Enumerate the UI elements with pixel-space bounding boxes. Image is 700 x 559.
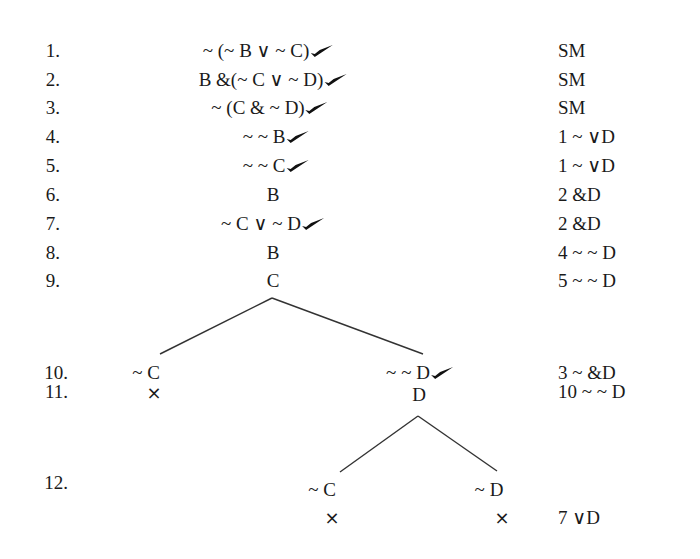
formula: B (267, 184, 280, 206)
checkmark-icon (285, 130, 309, 144)
justification: 2 &D (558, 213, 601, 235)
branch-right-formula: ~ ~ D (386, 362, 454, 384)
justification: SM (558, 40, 585, 62)
justification: 4 ~ ~ D (558, 242, 616, 264)
branch-closed-x-icon: × (146, 382, 161, 404)
branch-right-formula: D (412, 384, 426, 406)
formula: B &(~ C ∨ ~ D) (199, 69, 348, 91)
line-number: 12. (8, 472, 68, 494)
line-number: 6. (0, 184, 60, 206)
line-number: 5. (0, 155, 60, 177)
formula: ~ ~ B (243, 126, 310, 148)
branch-closed-x-icon: × (494, 507, 509, 529)
branch-line-right-1 (272, 298, 423, 354)
line-number: 4. (0, 126, 60, 148)
justification: SM (558, 97, 585, 119)
checkmark-icon (323, 73, 347, 87)
formula: C (267, 270, 280, 292)
justification: 5 ~ ~ D (558, 270, 616, 292)
checkmark-icon (309, 44, 333, 58)
formula: ~ (~ B ∨ ~ C) (203, 40, 334, 62)
justification: 10 ~ ~ D (558, 381, 626, 403)
line-number: 1. (0, 40, 60, 62)
checkmark-icon (430, 366, 454, 380)
line-number: 11. (8, 381, 68, 403)
branch-line-right-2 (418, 416, 497, 471)
branch-closed-x-icon: × (324, 507, 339, 529)
branch-right-formula: ~ D (475, 479, 504, 501)
line-number: 7. (0, 213, 60, 235)
formula: ~ (C & ~ D) (211, 97, 328, 119)
branch-left-formula: ~ C (132, 362, 160, 384)
branch-line-left-1 (160, 298, 272, 354)
formula: B (267, 242, 280, 264)
justification: 2 &D (558, 184, 601, 206)
formula: ~ C ∨ ~ D (221, 213, 325, 235)
branch-line-left-2 (340, 416, 418, 472)
line-number: 3. (0, 97, 60, 119)
line-number: 8. (0, 242, 60, 264)
justification: SM (558, 69, 585, 91)
checkmark-icon (285, 159, 309, 173)
justification: 7 ∨D (558, 507, 600, 529)
formula: ~ ~ C (243, 155, 310, 177)
checkmark-icon (305, 101, 329, 115)
line-number: 2. (0, 69, 60, 91)
line-number: 9. (0, 270, 60, 292)
checkmark-icon (301, 217, 325, 231)
justification: 1 ~ ∨D (558, 155, 615, 177)
branch-left-formula: ~ C (308, 479, 336, 501)
justification: 1 ~ ∨D (558, 126, 615, 148)
